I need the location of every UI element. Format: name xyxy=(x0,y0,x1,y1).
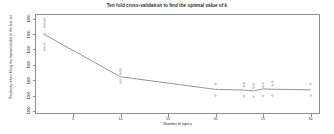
scatter-point xyxy=(44,23,46,25)
plot-series-layer xyxy=(35,14,320,114)
y-tick-mark xyxy=(33,49,36,50)
scatter-point xyxy=(272,85,274,87)
scatter-point xyxy=(44,26,46,28)
series-line-mean-perplexity xyxy=(45,35,311,91)
scatter-point xyxy=(44,47,46,49)
scatter-point xyxy=(120,71,122,73)
y-tick-mark xyxy=(33,65,36,66)
y-tick-mark xyxy=(33,80,36,81)
y-tick-mark xyxy=(33,34,36,35)
x-tick-label: 10 xyxy=(119,117,123,121)
scatter-point xyxy=(120,69,122,71)
scatter-point xyxy=(44,20,46,22)
scatter-point xyxy=(262,86,264,88)
scatter-point xyxy=(272,81,274,83)
scatter-point xyxy=(253,84,255,86)
scatter-point xyxy=(44,49,46,51)
scatter-point xyxy=(310,95,312,97)
scatter-point xyxy=(215,95,217,97)
chart-canvas: Ten fold cross-validation to find the op… xyxy=(0,0,334,134)
scatter-point xyxy=(253,96,255,98)
scatter-point xyxy=(44,43,46,45)
scatter-point xyxy=(243,95,245,97)
scatter-point xyxy=(243,82,245,84)
scatter-point xyxy=(262,95,264,97)
scatter-point xyxy=(262,83,264,85)
scatter-point xyxy=(120,82,122,84)
x-tick-label: 20 xyxy=(214,117,218,121)
chart-title: Ten fold cross-validation to find the op… xyxy=(0,3,334,8)
x-tick-label: 5 xyxy=(72,117,74,121)
y-axis-label: Perplexity when fitting the trained mode… xyxy=(9,2,13,112)
x-tick-label: 15 xyxy=(166,117,170,121)
y-tick-mark xyxy=(33,19,36,20)
scatter-point xyxy=(215,83,217,85)
y-tick-mark xyxy=(33,111,36,112)
x-tick-label: 25 xyxy=(261,117,265,121)
scatter-point xyxy=(120,79,122,81)
x-axis-label: Number of topics xyxy=(35,122,320,126)
x-tick-label: 30 xyxy=(309,117,313,121)
scatter-point xyxy=(44,18,46,20)
scatter-point xyxy=(310,83,312,85)
scatter-point xyxy=(243,85,245,87)
scatter-point xyxy=(120,73,122,75)
scatter-point xyxy=(253,87,255,89)
y-tick-mark xyxy=(33,96,36,97)
scatter-point xyxy=(272,95,274,97)
